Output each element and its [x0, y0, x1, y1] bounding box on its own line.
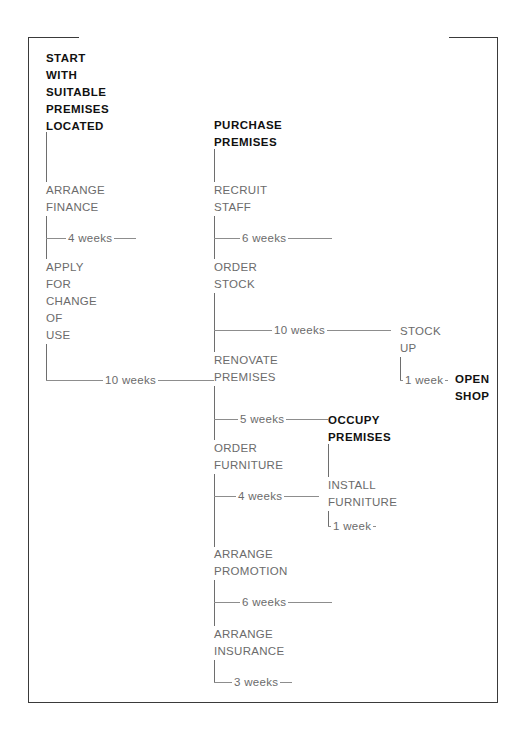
connector-arrange-insurance-stem [214, 660, 215, 683]
duration-stock-up: 1 week [403, 374, 445, 386]
connector-arrange-finance-stem [46, 216, 47, 239]
connector-stock-up-stem [400, 357, 401, 381]
frame-top-right-segment [449, 37, 498, 38]
connector-purchase-to-recruit-staff [214, 149, 215, 182]
connector-start-to-arrange-finance [46, 132, 47, 182]
frame-right-rule [497, 37, 498, 703]
connector-arrange-promotion-stem [214, 580, 215, 603]
diagram-canvas: START WITH SUITABLE PREMISES LOCATED ARR… [0, 0, 521, 740]
duration-install-furniture: 1 week [331, 520, 373, 532]
frame-top-left-segment [28, 37, 79, 38]
connector-arrange-promotion-to-arrange-insurance [214, 603, 215, 626]
task-install-furniture: INSTALL FURNITURE [328, 477, 478, 511]
task-arrange-promotion: ARRANGE PROMOTION [214, 546, 374, 580]
connector-order-stock-stem [214, 293, 215, 331]
connector-order-furniture-to-arrange-promotion [214, 497, 215, 547]
duration-arrange-finance: 4 weeks [66, 232, 114, 244]
frame-bottom-rule [28, 702, 498, 703]
duration-order-stock: 10 weeks [272, 324, 327, 336]
task-apply-for-change-of-use: APPLY FOR CHANGE OF USE [46, 259, 196, 344]
duration-arrange-promotion: 6 weeks [240, 596, 288, 608]
connector-occupy-to-install-furniture [328, 444, 329, 477]
task-order-stock: ORDER STOCK [214, 259, 364, 293]
task-arrange-insurance: ARRANGE INSURANCE [214, 626, 374, 660]
connector-renovate-to-order-furniture [214, 420, 215, 440]
connector-recruit-staff-stem [214, 216, 215, 239]
connector-install-furniture-stem [328, 511, 329, 527]
connector-order-furniture-stem [214, 474, 215, 497]
task-recruit-staff: RECRUIT STAFF [214, 182, 364, 216]
connector-arrange-finance-to-apply [46, 239, 47, 259]
connector-recruit-staff-to-order-stock [214, 239, 215, 259]
connector-renovate-stem [214, 386, 215, 420]
connector-apply-stem [46, 344, 47, 381]
milestone-purchase-premises: PURCHASE PREMISES [214, 117, 374, 151]
milestone-occupy-premises: OCCUPY PREMISES [328, 412, 478, 446]
milestone-open-shop: OPEN SHOP [455, 371, 515, 405]
milestone-start: START WITH SUITABLE PREMISES LOCATED [46, 50, 186, 135]
duration-arrange-insurance: 3 weeks [232, 676, 280, 688]
frame-left-rule [28, 37, 29, 703]
duration-apply-change-of-use: 10 weeks [103, 374, 158, 386]
task-arrange-finance: ARRANGE FINANCE [46, 182, 196, 216]
duration-renovate-premises: 5 weeks [238, 413, 286, 425]
duration-recruit-staff: 6 weeks [240, 232, 288, 244]
connector-order-stock-to-renovate [214, 331, 215, 352]
task-renovate-premises: RENOVATE PREMISES [214, 352, 364, 386]
duration-order-furniture: 4 weeks [236, 490, 284, 502]
task-stock-up: STOCK UP [400, 323, 500, 357]
